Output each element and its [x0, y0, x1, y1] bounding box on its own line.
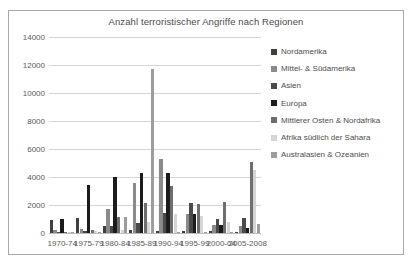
legend-swatch-icon — [271, 100, 277, 106]
y-axis-tick-label: 14000 — [23, 33, 45, 42]
bar-group — [102, 37, 129, 233]
legend-label: Mittel- & Südamerika — [281, 64, 355, 73]
legend-swatch-icon — [271, 49, 277, 55]
x-axis-tick-label: 1985-89 — [127, 239, 156, 248]
bar-group — [155, 37, 182, 233]
legend-item: Europa — [271, 95, 401, 112]
x-axis-tick-label: 1975-79 — [74, 239, 103, 248]
y-axis-tick-label: 8000 — [27, 117, 45, 126]
legend-item: Afrika südlich der Sahara — [271, 129, 401, 146]
y-axis-tick-label: 2000 — [27, 201, 45, 210]
legend-label: Mittlerer Osten & Nordafrika — [281, 116, 380, 125]
x-axis-tick-label: 1990-94 — [154, 239, 183, 248]
plot-area — [49, 37, 261, 233]
bar — [177, 232, 180, 233]
bar — [174, 214, 177, 233]
legend-swatch-icon — [271, 66, 277, 72]
legend-item: Mittlerer Osten & Nordafrika — [271, 112, 401, 129]
legend-label: Afrika südlich der Sahara — [281, 133, 370, 142]
bar — [87, 185, 90, 233]
x-axis-tick-label: 2005-2008 — [229, 239, 267, 248]
bar — [124, 217, 127, 233]
x-axis-tick-label: 1980-84 — [101, 239, 130, 248]
bar — [257, 224, 260, 233]
legend: NordamerikaMittel- & SüdamerikaAsienEuro… — [271, 43, 401, 163]
x-axis-tick-label: 1970-74 — [48, 239, 77, 248]
y-axis-labels: 02000400060008000100001200014000 — [9, 37, 45, 233]
bar-group — [182, 37, 209, 233]
y-axis-tick-label: 4000 — [27, 173, 45, 182]
legend-label: Nordamerika — [281, 47, 327, 56]
legend-swatch-icon — [271, 135, 277, 141]
bar — [230, 232, 233, 233]
y-axis-tick-label: 10000 — [23, 89, 45, 98]
x-axis-tick-label: 1995-99 — [180, 239, 209, 248]
bar-group — [76, 37, 103, 233]
bar — [151, 69, 154, 233]
legend-swatch-icon — [271, 83, 277, 89]
chart-card: Anzahl terroristischer Angriffe nach Reg… — [8, 10, 404, 255]
y-axis-tick-label: 6000 — [27, 145, 45, 154]
bar — [60, 219, 63, 233]
legend-item: Australasien & Ozeanien — [271, 146, 401, 163]
y-axis-tick-label: 12000 — [23, 61, 45, 70]
bar-group — [49, 37, 76, 233]
legend-swatch-icon — [271, 152, 277, 158]
bar — [71, 232, 74, 233]
bar-groups — [49, 37, 261, 233]
bar — [204, 232, 207, 233]
bar — [98, 232, 101, 233]
legend-label: Europa — [281, 99, 307, 108]
legend-item: Mittel- & Südamerika — [271, 60, 401, 77]
bar-group — [208, 37, 235, 233]
page-title: Anzahl terroristischer Angriffe nach Reg… — [9, 16, 403, 27]
legend-label: Australasien & Ozeanien — [281, 150, 369, 159]
gridline — [49, 233, 261, 234]
legend-label: Asien — [281, 81, 301, 90]
bar-group — [129, 37, 156, 233]
y-axis-tick-label: 0 — [41, 229, 45, 238]
legend-item: Asien — [271, 77, 401, 94]
bar-group — [235, 37, 262, 233]
bar — [200, 216, 203, 233]
legend-swatch-icon — [271, 117, 277, 123]
legend-item: Nordamerika — [271, 43, 401, 60]
